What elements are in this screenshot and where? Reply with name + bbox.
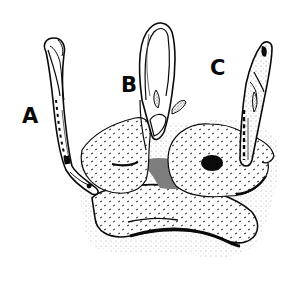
label-c: C <box>210 58 225 79</box>
fish-b-fin-right <box>172 100 186 114</box>
burrow-hole <box>201 155 223 171</box>
label-b: B <box>121 75 137 96</box>
illustration-figure: A B C <box>0 0 291 284</box>
illustration-canvas <box>0 0 291 284</box>
mound-left-lobe <box>81 118 150 194</box>
label-a: A <box>22 106 38 127</box>
